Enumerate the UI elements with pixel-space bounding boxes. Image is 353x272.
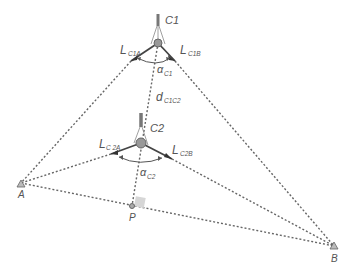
label-l-c1b: L C1B bbox=[180, 43, 201, 57]
line-c2-b bbox=[172, 159, 334, 246]
svg-text:L: L bbox=[120, 43, 127, 57]
svg-text:C1A: C1A bbox=[128, 50, 141, 57]
svg-text:C1: C1 bbox=[164, 70, 173, 77]
point-p-icon bbox=[130, 204, 135, 209]
angle-arc-c1 bbox=[137, 58, 170, 63]
label-c1: C1 bbox=[165, 14, 179, 26]
svg-text:L: L bbox=[99, 137, 106, 151]
angle-arc-c2 bbox=[119, 157, 162, 162]
target-a-icon bbox=[17, 180, 25, 187]
label-b: B bbox=[331, 253, 338, 264]
label-a: A bbox=[17, 189, 25, 200]
station-c1-icon bbox=[154, 39, 162, 47]
label-p: P bbox=[129, 212, 136, 223]
label-l-c1a: L C1A bbox=[120, 43, 141, 57]
label-alpha-c1: α C1 bbox=[157, 63, 173, 77]
svg-text:C2: C2 bbox=[147, 173, 156, 180]
svg-text:C1B: C1B bbox=[188, 50, 201, 57]
svg-text:C 2A: C 2A bbox=[106, 144, 120, 151]
svg-text:L: L bbox=[172, 143, 179, 157]
svg-text:C1C2: C1C2 bbox=[164, 97, 181, 104]
svg-text:d: d bbox=[156, 90, 163, 104]
svg-text:α: α bbox=[140, 166, 147, 178]
surveying-diagram: C1 C2 A B P L C1A L C1B α C1 d C1C2 L C … bbox=[0, 0, 353, 272]
svg-text:L: L bbox=[180, 43, 187, 57]
label-alpha-c2: α C2 bbox=[140, 166, 156, 180]
line-a-b bbox=[21, 183, 334, 246]
arrow-c2-b-icon bbox=[164, 153, 172, 159]
label-l-c2b: L C2B bbox=[172, 143, 193, 157]
label-d-c1c2: d C1C2 bbox=[156, 90, 181, 104]
svg-text:α: α bbox=[157, 63, 164, 75]
right-angle-marker bbox=[134, 196, 146, 208]
station-c2-icon bbox=[136, 138, 146, 148]
instrument-c2 bbox=[111, 113, 172, 162]
label-c2: C2 bbox=[150, 122, 164, 134]
label-l-c2a: L C 2A bbox=[99, 137, 120, 151]
svg-text:C2B: C2B bbox=[180, 150, 193, 157]
